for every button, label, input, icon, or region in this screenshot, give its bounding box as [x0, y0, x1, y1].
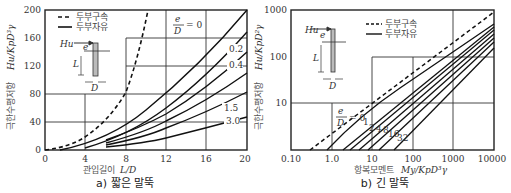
x-axis-ticks: 0.10 1.0 10 100 1000 10000 — [281, 154, 507, 164]
svg-text:e: e — [83, 42, 88, 52]
curve-e04 — [106, 52, 247, 140]
svg-text:= 0: = 0 — [186, 20, 202, 30]
pile-diagram-inset: Hu e L D — [304, 25, 346, 91]
svg-text:40: 40 — [30, 117, 42, 127]
svg-text:두부구속: 두부구속 — [385, 19, 417, 29]
svg-text:Hu/KpD²γ: Hu/KpD²γ — [254, 24, 264, 71]
svg-text:1.0: 1.0 — [325, 154, 340, 164]
svg-text:200: 200 — [24, 5, 41, 15]
caption-short-pile: a) 짧은 말뚝 — [96, 176, 154, 190]
svg-text:3.0: 3.0 — [226, 116, 241, 126]
svg-text:4: 4 — [82, 154, 88, 164]
svg-text:10000: 10000 — [478, 154, 507, 164]
x-axis-label: 항복모멘트 — [354, 165, 394, 175]
svg-text:두부구속: 두부구속 — [76, 12, 108, 22]
svg-text:16: 16 — [200, 154, 212, 164]
svg-text:0: 0 — [35, 145, 41, 155]
x-axis-label: 관입길이 — [83, 164, 115, 175]
svg-text:10: 10 — [276, 98, 288, 108]
y-axis-label: 극한수평저항 Hu/KpD³γ — [6, 24, 16, 130]
svg-text:1000: 1000 — [442, 154, 465, 164]
svg-text:20: 20 — [239, 154, 251, 164]
annotation-e-over-D: e D = 0 — [336, 106, 365, 128]
svg-text:D: D — [90, 83, 98, 93]
svg-text:120: 120 — [24, 61, 41, 71]
svg-text:4: 4 — [376, 124, 382, 134]
svg-text:10: 10 — [366, 154, 378, 164]
svg-text:1.5: 1.5 — [224, 103, 239, 113]
long-pile-chart: 10 100 1000 0.10 1.0 10 100 1000 10000 항… — [254, 5, 507, 190]
svg-text:극한수평저항: 극한수평저항 — [6, 82, 16, 130]
curve-e32 — [394, 48, 494, 150]
y-axis-ticks: 0 40 80 120 160 200 — [24, 5, 41, 155]
svg-text:1000: 1000 — [264, 5, 287, 15]
svg-text:e: e — [320, 30, 325, 40]
svg-text:100: 100 — [404, 154, 421, 164]
legend: 두부구속 두부자유 — [366, 19, 417, 39]
svg-text:D: D — [336, 118, 344, 128]
svg-text:2: 2 — [369, 123, 375, 133]
svg-text:두부자유: 두부자유 — [385, 29, 417, 39]
svg-text:1: 1 — [363, 117, 369, 127]
svg-text:L: L — [312, 53, 319, 63]
svg-text:극한수평저항: 극한수평저항 — [254, 82, 264, 130]
svg-text:Hu: Hu — [59, 39, 74, 49]
svg-text:160: 160 — [24, 33, 41, 43]
x-axis-label-math: L/D — [119, 165, 136, 175]
svg-text:e: e — [338, 106, 343, 116]
annotation-e-over-D: e D = 0 — [173, 14, 202, 36]
caption-long-pile: b) 긴 말뚝 — [361, 177, 409, 190]
x-axis-label-math: My/KpD³γ — [400, 165, 448, 175]
legend: 두부구속 두부자유 — [58, 12, 108, 32]
svg-text:0.2: 0.2 — [229, 44, 243, 54]
y-axis-ticks: 10 100 1000 — [264, 5, 287, 108]
svg-text:0.4: 0.4 — [229, 60, 244, 70]
svg-text:0.10: 0.10 — [281, 154, 301, 164]
svg-text:0: 0 — [42, 154, 48, 164]
svg-text:32: 32 — [397, 133, 408, 143]
svg-text:e: e — [175, 14, 180, 24]
x-axis-ticks: 0 4 8 12 16 20 — [42, 154, 251, 164]
svg-text:Hu/KpD³γ: Hu/KpD³γ — [6, 24, 16, 71]
svg-text:L: L — [72, 59, 79, 69]
curve-e0 — [327, 24, 494, 150]
svg-text:100: 100 — [270, 52, 287, 62]
curve-e1 — [343, 27, 494, 150]
svg-text:D: D — [328, 81, 336, 91]
svg-text:Hu: Hu — [304, 25, 319, 35]
svg-text:80: 80 — [30, 89, 42, 99]
y-axis-label: 극한수평저항 Hu/KpD²γ — [254, 24, 264, 130]
svg-text:D: D — [173, 26, 181, 36]
svg-text:12: 12 — [160, 154, 171, 164]
short-pile-chart: 0 40 80 120 160 200 0 4 8 12 16 20 관입길이 … — [6, 5, 251, 190]
figure: 0 40 80 120 160 200 0 4 8 12 16 20 관입길이 … — [0, 0, 511, 193]
pile-diagram-inset: Hu e L D — [59, 39, 110, 93]
svg-text:8: 8 — [123, 154, 129, 164]
svg-text:두부자유: 두부자유 — [76, 22, 108, 32]
